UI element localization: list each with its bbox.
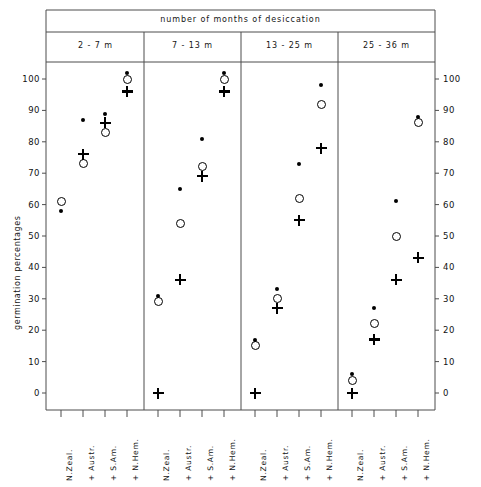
data-point-circle [295,194,304,203]
y-tick-label-right: 50 [443,231,471,241]
panel-label-2: 7 - 13 m [144,41,241,50]
y-tick-label-right: 30 [443,294,471,304]
data-point-plus [153,388,164,399]
x-category-label: + S.Am. [206,445,215,481]
data-point-plus [122,86,133,97]
data-point-dot [200,137,204,141]
data-point-plus [316,143,327,154]
y-axis-title: germination percentages [13,215,22,330]
x-category-label: + Austr. [184,445,193,481]
data-point-circle [370,319,379,328]
y-tick-label-left: 0 [12,388,40,398]
x-category-label: + Austr. [378,445,387,481]
x-category-label: + N.Hem. [325,438,334,481]
figure-canvas: number of months of desiccation2 - 7 m7 … [0,0,481,487]
data-point-dot [103,112,107,116]
data-point-plus [369,334,380,345]
y-tick-label-left: 10 [12,357,40,367]
y-tick-label-right: 100 [443,74,471,84]
data-point-plus [100,117,111,128]
data-point-circle [251,341,260,350]
y-tick-label-right: 90 [443,105,471,115]
data-point-circle [79,159,88,168]
y-tick-label-right: 10 [443,357,471,367]
x-category-label: N.Zeal. [65,449,74,481]
data-point-plus [219,86,230,97]
data-point-plus [250,388,261,399]
data-point-circle [154,297,163,306]
data-point-circle [348,376,357,385]
data-point-circle [123,75,132,84]
x-category-label: + Austr. [87,445,96,481]
data-point-circle [317,100,326,109]
x-category-label: + N.Hem. [422,438,431,481]
data-point-plus [197,171,208,182]
data-point-plus [391,274,402,285]
y-tick-label-left: 80 [12,137,40,147]
data-point-plus [413,252,424,263]
y-tick-label-left: 90 [12,105,40,115]
data-point-plus [347,388,358,399]
figure-frame [0,0,481,487]
data-point-circle [220,75,229,84]
data-point-dot [59,209,63,213]
data-point-circle [57,197,66,206]
header-title: number of months of desiccation [46,15,435,24]
y-tick-label-right: 70 [443,168,471,178]
x-category-label: + N.Hem. [228,438,237,481]
data-point-circle [176,219,185,228]
y-tick-label-right: 40 [443,262,471,272]
y-tick-label-left: 100 [12,74,40,84]
x-category-label: + S.Am. [109,445,118,481]
y-tick-label-right: 20 [443,325,471,335]
data-point-dot [297,162,301,166]
y-tick-label-left: 60 [12,200,40,210]
y-tick-label-right: 60 [443,200,471,210]
x-category-label: + S.Am. [400,445,409,481]
x-category-label: + S.Am. [303,445,312,481]
data-point-plus [175,274,186,285]
y-tick-label-left: 70 [12,168,40,178]
x-category-label: + Austr. [281,445,290,481]
panel-label-3: 13 - 25 m [241,41,338,50]
data-point-circle [414,118,423,127]
data-point-dot [81,118,85,122]
data-point-circle [392,232,401,241]
x-category-label: + N.Hem. [131,438,140,481]
data-point-dot [178,187,182,191]
data-point-circle [101,128,110,137]
data-point-plus [272,303,283,314]
panel-label-4: 25 - 36 m [338,41,435,50]
x-category-label: N.Zeal. [356,449,365,481]
data-point-plus [78,149,89,160]
y-tick-label-right: 0 [443,388,471,398]
data-point-plus [294,215,305,226]
y-tick-label-right: 80 [443,137,471,147]
panel-label-1: 2 - 7 m [47,41,144,50]
x-category-label: N.Zeal. [259,449,268,481]
x-category-label: N.Zeal. [162,449,171,481]
